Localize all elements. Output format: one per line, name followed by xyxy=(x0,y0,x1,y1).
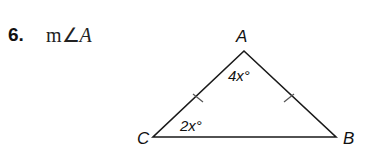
vertex-label-c: C xyxy=(137,129,150,146)
triangle-figure: A C B 4x° 2x° xyxy=(0,0,373,146)
angle-label-a: 4x° xyxy=(228,67,250,84)
vertex-label-a: A xyxy=(235,27,247,46)
vertex-label-b: B xyxy=(343,129,354,146)
tick-mark-ab xyxy=(284,94,294,102)
angle-label-c: 2x° xyxy=(179,117,202,134)
